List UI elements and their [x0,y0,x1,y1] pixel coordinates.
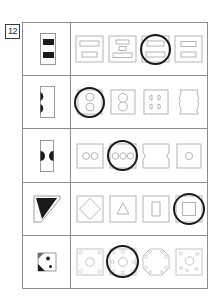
option-square-with-eight-dots-and-center-circle[interactable] [108,247,138,277]
prompt-cell-row-3 [23,129,71,181]
problem-row [23,76,207,129]
option-square-with-two-circles-horizontal[interactable] [75,141,105,171]
option-octagon-with-corner-dots[interactable] [141,247,171,277]
options-cell-row-4 [71,183,207,235]
prompt-cell-row-4 [23,183,71,235]
option-square-with-tall-rectangle[interactable] [141,194,171,224]
rectangle-with-black-half-circles-both-edges-icon [35,139,59,173]
options-cell-row-1 [71,23,207,75]
prompt-cell-row-2 [23,76,71,128]
option-square-with-triangle[interactable] [108,194,138,224]
option-square-with-scattered-dots-and-circle[interactable] [174,247,204,277]
option-square-with-two-circles-vertical[interactable] [75,87,105,117]
options-cell-row-2 [71,76,207,128]
option-three-light-bars-stacked[interactable] [108,34,138,64]
option-square-with-diamond[interactable] [75,194,105,224]
item-number-badge: 12 [5,24,20,39]
options-cell-row-3 [71,129,207,181]
rectangle-with-two-black-half-circles-left-icon [36,85,58,119]
option-square-with-side-notches[interactable] [141,141,171,171]
problem-grid [22,22,208,289]
square-with-black-dots-and-corner-wedge-icon [35,250,59,274]
option-square-with-corner-dots-and-center-circle[interactable] [75,247,105,277]
option-square-with-figure-eight[interactable] [108,87,138,117]
options-cell-row-5 [71,236,207,288]
worksheet-page: 12 [0,0,215,303]
problem-row [23,183,207,236]
prompt-cell-row-1 [23,23,71,75]
prompt-cell-row-5 [23,236,71,288]
square-with-black-triangle-wedge-icon [31,193,63,225]
option-square-with-one-circle[interactable] [174,141,204,171]
problem-row [23,23,207,76]
option-two-light-bars-matching[interactable] [141,34,171,64]
option-square-with-square[interactable] [174,194,204,224]
option-square-with-four-small-lobes[interactable] [141,87,171,117]
option-square-with-three-circles-horizontal[interactable] [108,141,138,171]
problem-row [23,236,207,288]
rectangle-with-two-black-bars-icon [36,32,58,66]
option-two-light-bars-short[interactable] [174,34,204,64]
option-two-light-bars-long-top[interactable] [75,34,105,64]
problem-row [23,129,207,182]
option-shape-with-wavy-sides[interactable] [174,87,204,117]
